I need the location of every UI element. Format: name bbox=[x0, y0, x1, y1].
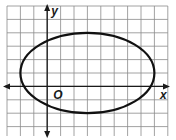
x-axis-label: x bbox=[160, 88, 167, 102]
axes bbox=[3, 4, 170, 138]
origin-label: O bbox=[53, 88, 62, 102]
x-axis-left-arrow-icon bbox=[3, 83, 10, 89]
coordinate-graph bbox=[0, 0, 176, 140]
y-axis-down-arrow-icon bbox=[44, 131, 50, 138]
y-axis-label: y bbox=[51, 4, 58, 18]
grid-lines bbox=[7, 6, 168, 136]
y-axis-arrow-icon bbox=[44, 4, 50, 11]
